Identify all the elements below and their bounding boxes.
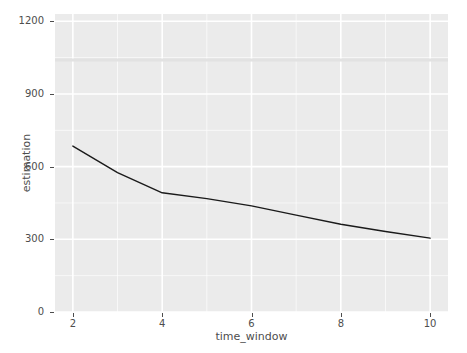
y-tick-mark bbox=[50, 312, 54, 313]
x-axis-title: time_window bbox=[55, 330, 448, 344]
y-tick-mark bbox=[50, 167, 54, 168]
y-tick-label: 300 bbox=[0, 233, 44, 245]
x-tick-mark bbox=[73, 313, 74, 317]
y-tick-label: 1200 bbox=[0, 15, 44, 27]
y-tick-mark bbox=[50, 239, 54, 240]
x-tick-label: 2 bbox=[53, 318, 93, 330]
y-tick-mark bbox=[50, 21, 54, 22]
x-tick-mark bbox=[252, 313, 253, 317]
y-tick-mark bbox=[50, 94, 54, 95]
x-tick-mark bbox=[430, 313, 431, 317]
x-tick-mark bbox=[162, 313, 163, 317]
x-tick-mark bbox=[341, 313, 342, 317]
x-tick-label: 10 bbox=[410, 318, 450, 330]
chart-container: estimation 03006009001200 246810 time_wi… bbox=[0, 0, 467, 353]
x-tick-label: 6 bbox=[232, 318, 272, 330]
y-tick-label: 900 bbox=[0, 88, 44, 100]
plot-area-svg bbox=[55, 14, 448, 312]
x-tick-label: 4 bbox=[142, 318, 182, 330]
reference-band-line bbox=[55, 59, 448, 62]
x-tick-label: 8 bbox=[321, 318, 361, 330]
plot-panel bbox=[55, 14, 448, 312]
y-tick-label: 600 bbox=[0, 161, 44, 173]
reference-band bbox=[55, 59, 448, 62]
y-tick-label: 0 bbox=[0, 306, 44, 318]
